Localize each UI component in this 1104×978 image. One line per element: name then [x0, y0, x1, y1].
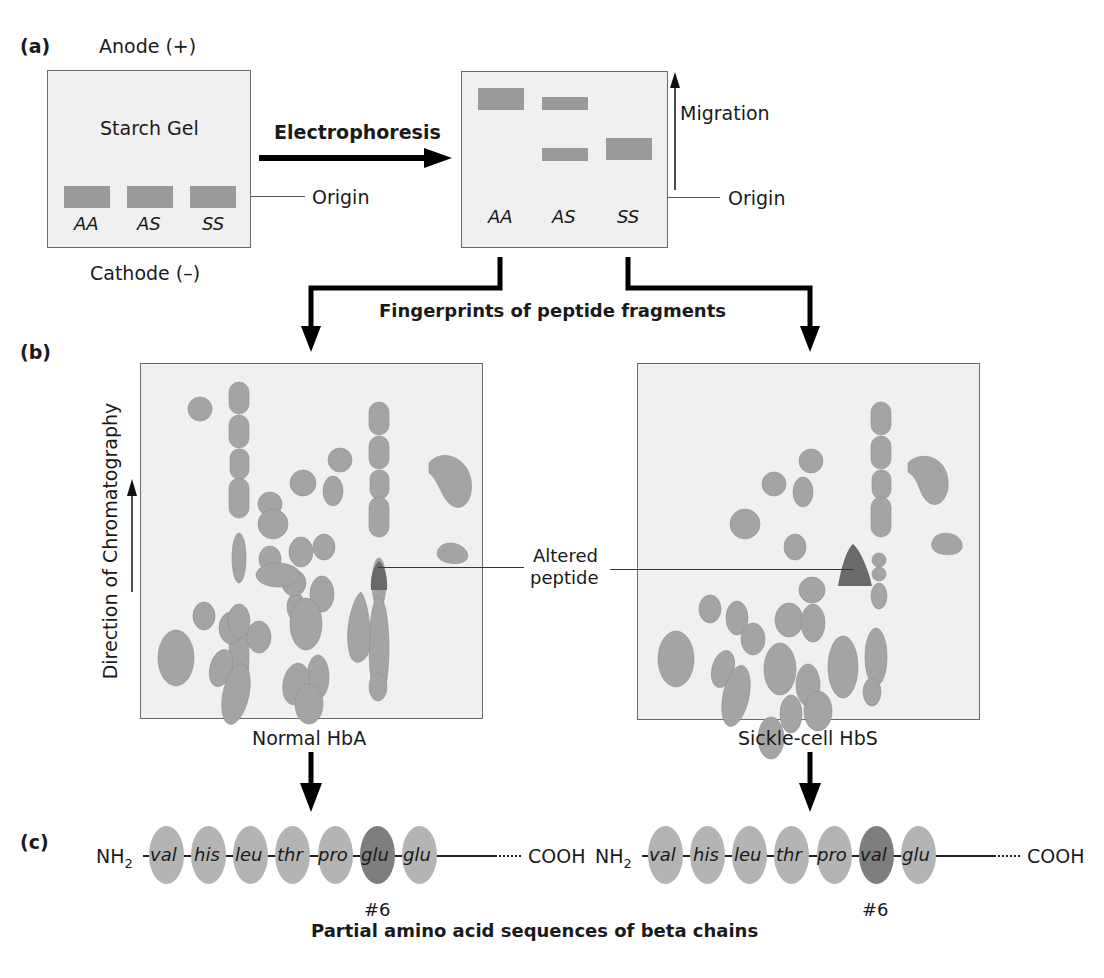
fingerprints-heading: Fingerprints of peptide fragments [379, 302, 726, 320]
migration-arrow-icon [670, 72, 680, 190]
n-terminus-sickle: NH2 [595, 847, 632, 870]
residue-1: val [150, 846, 177, 864]
sequence-normal: NH2 val his leu thr pro glu glu COOH [96, 824, 566, 886]
sickle-hbs-caption: Sickle-cell HbS [738, 729, 878, 748]
altered-peptide-leader-line-left [378, 567, 524, 568]
residue-3: leu [734, 846, 761, 864]
electrophoresis-arrow-icon [259, 148, 452, 168]
chain-continuation [495, 855, 521, 857]
migration-label: Migration [680, 104, 770, 123]
sequence-caption: Partial amino acid sequences of beta cha… [311, 922, 758, 940]
c-terminus-normal: COOH [528, 847, 585, 866]
peptide-spots-sickle [638, 364, 981, 721]
part-c-label: (c) [20, 833, 49, 852]
residue-7: glu [902, 846, 930, 864]
chromatography-direction-arrow-icon [127, 479, 137, 592]
peptide-spots-normal-main [141, 364, 484, 720]
fingerprint-normal-hba [140, 363, 483, 719]
altered-peptide-leader-line-right [610, 569, 853, 570]
altered-peptide-spot-sickle [838, 544, 872, 586]
band-aa-migrated [478, 88, 524, 110]
residue-7: glu [403, 846, 431, 864]
position-6-label-normal: #6 [364, 901, 391, 919]
origin-leader-line-right [668, 197, 720, 198]
residue-2: his [194, 846, 220, 864]
lane-label-as-after: AS [552, 208, 576, 226]
down-arrow-normal-icon [300, 752, 322, 812]
altered-peptide-spot-normal [371, 561, 387, 590]
residue-3: leu [235, 846, 262, 864]
down-arrow-sickle-icon [799, 752, 821, 812]
residue-1: val [649, 846, 676, 864]
origin-label-right: Origin [728, 189, 785, 208]
residue-2: his [693, 846, 719, 864]
lane-label-aa-after: AA [488, 208, 513, 226]
band-as-slow [542, 148, 588, 161]
residue-4: thr [277, 846, 303, 864]
band-as-fast [542, 97, 588, 110]
altered-label-line2: peptide [530, 569, 598, 587]
fingerprint-sickle-hbs [637, 363, 980, 720]
chain-continuation [994, 855, 1020, 857]
residue-6: val [860, 846, 887, 864]
residue-6: glu [361, 846, 389, 864]
position-6-label-sickle: #6 [862, 901, 889, 919]
residue-5: pro [817, 846, 847, 864]
residue-5: pro [318, 846, 348, 864]
residue-4: thr [776, 846, 802, 864]
lane-label-ss-after: SS [617, 208, 639, 226]
normal-hba-caption: Normal HbA [252, 729, 366, 748]
part-b-label: (b) [20, 343, 51, 362]
altered-label-line1: Altered [533, 547, 598, 565]
starch-gel-after: AA AS SS [461, 71, 668, 248]
c-terminus-sickle: COOH [1027, 847, 1084, 866]
chromatography-axis-label: Direction of Chromatography [101, 403, 120, 680]
sequence-sickle: NH2 val his leu thr pro val glu COOH [595, 824, 1065, 886]
n-terminus-normal: NH2 [96, 847, 133, 870]
band-ss-migrated [606, 138, 652, 160]
